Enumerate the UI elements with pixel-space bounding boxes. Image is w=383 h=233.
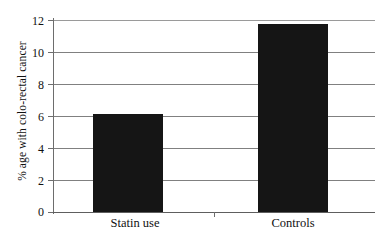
bar-chart: % age with colo-rectal cancer 12 10 8 6 … [0,0,383,233]
y-tick-label-10: 10 [18,47,44,59]
gridline-12 [53,20,375,21]
y-tick-label-8: 8 [18,79,44,91]
x-category-label-controls: Controls [243,215,343,231]
y-tick-label-6: 6 [18,111,44,123]
bar-controls [258,24,328,212]
y-axis-line [53,18,54,214]
y-tick-label-12: 12 [18,15,44,27]
x-tick-mid [214,212,215,217]
y-tick-label-2: 2 [18,175,44,187]
y-tick-label-4: 4 [18,143,44,155]
bar-statin-use [93,114,163,212]
y-tick-label-0: 0 [18,206,44,218]
x-category-label-statin-use: Statin use [85,215,185,231]
